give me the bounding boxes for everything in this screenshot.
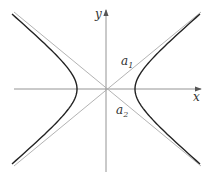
x-axis-label: x xyxy=(193,90,200,104)
y-axis-label: y xyxy=(94,7,102,21)
asymptote-1-label: a1 xyxy=(121,54,133,70)
asymptote-2-label: a2 xyxy=(116,103,128,119)
hyperbola-diagram: y x a1 a2 xyxy=(0,0,215,178)
